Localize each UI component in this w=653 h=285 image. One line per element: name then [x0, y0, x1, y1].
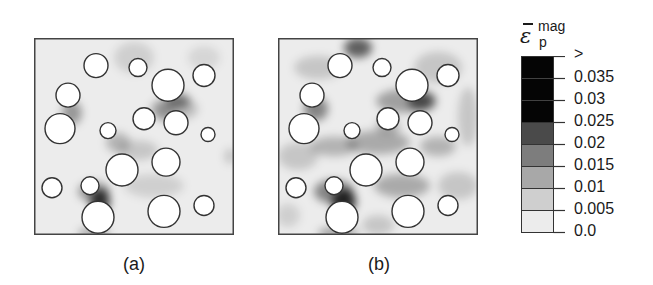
colorbar-segment [522, 101, 554, 123]
panel-b-caption: (b) [349, 254, 409, 275]
inclusion-circle [396, 69, 428, 101]
inclusion-circle [193, 64, 215, 86]
colorbar-tick-label: 0.035 [574, 69, 614, 85]
panel-b-contour-plot [278, 38, 478, 235]
inclusion-circle [194, 195, 214, 215]
colorbar-tick-label: 0.03 [574, 91, 605, 107]
inclusion-circle [445, 128, 459, 142]
colorbar-tick-label: 0.01 [574, 179, 605, 195]
colorbar-tick-label: 0.02 [574, 135, 605, 151]
inclusion-circle [148, 195, 180, 227]
colorbar-title-subscript: p [539, 34, 547, 50]
contour-field [34, 38, 234, 235]
inclusion-circle [81, 177, 99, 195]
inclusion-circle [152, 69, 184, 101]
colorbar-segment [522, 123, 554, 145]
inclusion-circle [289, 114, 319, 144]
colorbar-segment [522, 79, 554, 101]
inclusion-circle [286, 178, 306, 198]
colorbar-tick-label: > [574, 46, 583, 62]
inclusion-circle [438, 195, 458, 215]
colorbar-tick-label: 0.005 [574, 201, 614, 217]
inclusion-circle [164, 111, 188, 135]
inclusion-circle [344, 123, 360, 139]
inclusion-circle [42, 178, 62, 198]
inclusion-circle [326, 201, 358, 233]
inclusion-circle [373, 59, 391, 77]
inclusion-circle [129, 59, 147, 77]
figure: (a) (b) ε mag p > 0.035 0.03 0.025 0.02 … [0, 0, 653, 285]
inclusion-circle [100, 123, 116, 139]
colorbar-segment [522, 167, 554, 189]
strain-hotspot [362, 215, 394, 235]
colorbar-title-symbol: ε [520, 24, 531, 48]
inclusion-circle [201, 128, 215, 142]
inclusion-circle [396, 148, 424, 176]
colorbar-title-superscript: mag [538, 18, 565, 34]
inclusion-circle [133, 108, 155, 130]
colorbar-tick-label: 0.015 [574, 157, 614, 173]
inclusion-circle [82, 201, 114, 233]
inclusion-circle [408, 111, 432, 135]
colorbar-tick-label: 0.0 [574, 223, 596, 239]
strain-hotspot [374, 174, 430, 198]
panel-a-contour-plot [34, 38, 234, 235]
colorbar-scale [521, 56, 567, 236]
colorbar [521, 56, 567, 236]
colorbar-segment [522, 57, 554, 79]
colorbar-segment [522, 189, 554, 211]
colorbar-tick-label: 0.025 [574, 113, 614, 129]
inclusion-circle [325, 177, 343, 195]
inclusion-circle [84, 54, 108, 78]
panel-a-caption: (a) [104, 254, 164, 275]
contour-field [278, 38, 478, 235]
strain-hotspot [278, 142, 318, 170]
inclusion-circle [45, 114, 75, 144]
inclusion-circle [328, 54, 352, 78]
inclusion-circle [152, 148, 180, 176]
strain-hotspot [344, 38, 372, 58]
strain-hotspot [458, 87, 478, 146]
inclusion-circle [300, 83, 324, 107]
inclusion-circle [56, 83, 80, 107]
inclusion-circle [350, 154, 382, 186]
inclusion-circle [392, 195, 424, 227]
inclusion-circle [437, 64, 459, 86]
colorbar-segment [522, 211, 554, 233]
inclusion-circle [106, 154, 138, 186]
strain-hotspot [438, 172, 478, 200]
inclusion-circle [377, 108, 399, 130]
colorbar-segment [522, 145, 554, 167]
